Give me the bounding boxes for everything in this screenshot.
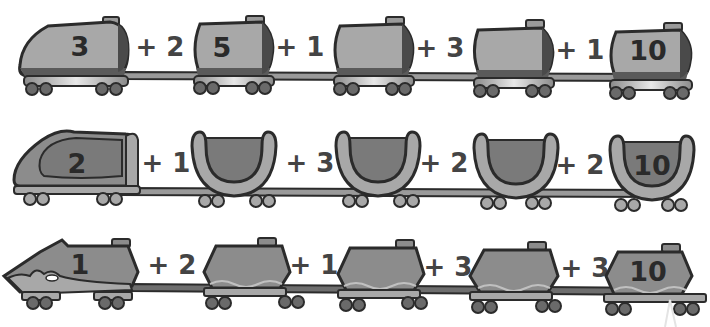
step-operator: + 1 (290, 250, 339, 280)
car-number: 10 (629, 35, 667, 66)
step-operator: + 2 (420, 148, 469, 178)
car-number: 10 (629, 256, 667, 287)
step-operator: + 1 (556, 35, 605, 65)
step-operator: + 1 (142, 148, 191, 178)
train-car-tank: 5 (194, 16, 274, 94)
step-operator: + 3 (424, 252, 473, 282)
train-car-engine: 3 (20, 17, 129, 95)
train-car-tank: 10 (610, 23, 692, 99)
train-car-hopper (474, 134, 558, 209)
step-operator: + 3 (286, 148, 335, 178)
train-car-boxcar (470, 242, 561, 313)
car-number: 2 (68, 148, 87, 179)
train-car-tank (334, 17, 414, 95)
train-car-tank (474, 20, 554, 97)
step-operator: + 2 (556, 150, 605, 180)
step-operator: + 2 (136, 32, 185, 62)
train-car-engine: 2 (14, 131, 140, 205)
train-car-engine: 1 (4, 239, 138, 309)
train-worksheet: 3 + 2 5 + 1 (0, 0, 710, 327)
step-operator: + 1 (276, 32, 325, 62)
row-1-tanker-train: 3 + 2 5 + 1 (20, 16, 692, 99)
step-operator: + 3 (561, 253, 610, 283)
row-3-flame-train: 1 + 2 + 1 + 3 (4, 238, 706, 327)
step-operator: + 3 (416, 33, 465, 63)
car-number: 5 (213, 32, 232, 63)
step-operator: + 2 (148, 250, 197, 280)
train-car-boxcar (338, 240, 427, 311)
train-car-boxcar: 10 (604, 244, 706, 315)
train-car-hopper: 10 (610, 136, 694, 211)
car-number: 3 (71, 31, 90, 62)
car-number: 10 (633, 150, 671, 181)
car-number: 1 (71, 249, 90, 280)
row-2-hopper-train: 2 + 1 + 3 + 2 (14, 131, 694, 211)
decorative-mark (665, 300, 676, 327)
